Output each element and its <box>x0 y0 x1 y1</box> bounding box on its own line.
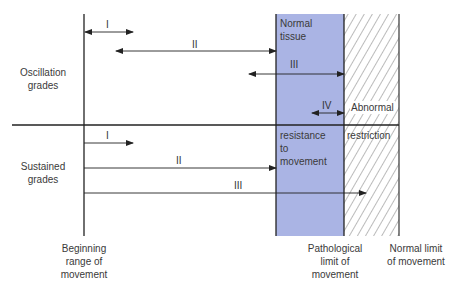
abnormal-label: Abnormal <box>350 101 395 114</box>
sustained-grades-label: Sustained grades <box>4 160 82 186</box>
resistance-line2: to <box>280 142 327 155</box>
beginning-range-label: Beginning range of movement <box>44 242 124 281</box>
sustained-grade-II-label: II <box>176 155 182 166</box>
sustained-label-line1: Sustained <box>4 160 82 173</box>
normal-limit-line1: Normal limit <box>380 242 452 255</box>
beginning-line3: movement <box>44 268 124 281</box>
sustained-label-line2: grades <box>4 173 82 186</box>
oscillation-grade-I-label: I <box>106 19 109 30</box>
resistance-line3: movement <box>280 155 327 168</box>
resistance-line1: resistance <box>280 129 327 142</box>
pathological-line2: limit of <box>300 255 370 268</box>
oscillation-label-line1: Oscillation <box>4 66 82 79</box>
resistance-to-movement-label: resistance to movement <box>280 129 327 168</box>
normal-tissue-label: Normal tissue <box>280 17 312 43</box>
pathological-line3: movement <box>300 268 370 281</box>
oscillation-grade-II-label: II <box>192 39 198 50</box>
oscillation-grade-IV-label: IV <box>322 100 331 111</box>
beginning-line1: Beginning <box>44 242 124 255</box>
pathological-limit-label: Pathological limit of movement <box>300 242 370 281</box>
normal-limit-label: Normal limit of movement <box>380 242 452 268</box>
normal-tissue-line1: Normal <box>280 17 312 30</box>
oscillation-grades-label: Oscillation grades <box>4 66 82 92</box>
sustained-grade-I-label: I <box>106 130 109 141</box>
oscillation-grade-III-label: III <box>290 59 298 70</box>
normal-limit-line2: of movement <box>380 255 452 268</box>
beginning-line2: range of <box>44 255 124 268</box>
pathological-line1: Pathological <box>300 242 370 255</box>
restriction-label: restriction <box>347 129 390 142</box>
oscillation-label-line2: grades <box>4 79 82 92</box>
normal-tissue-line2: tissue <box>280 30 312 43</box>
sustained-grade-III-label: III <box>234 180 242 191</box>
